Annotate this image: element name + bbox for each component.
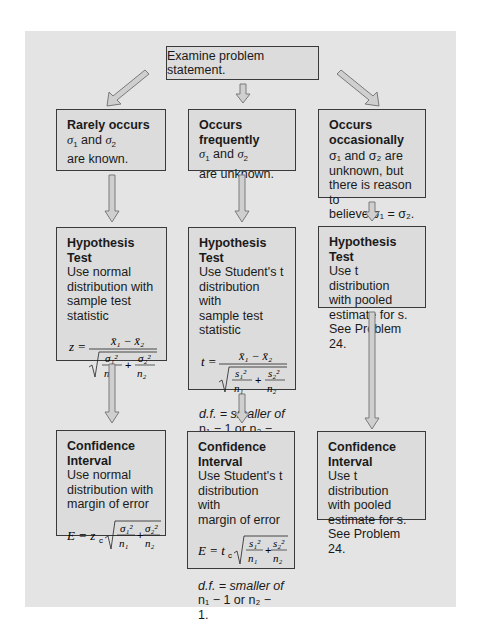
hypothesis-test-title: Hypothesis Test: [329, 235, 415, 264]
text-line: Use t distribution: [329, 264, 415, 293]
text-line: Use Student's t: [199, 265, 285, 280]
text-line: distribution with: [67, 483, 155, 498]
arrow-col2-down-2-icon: [234, 394, 250, 424]
rarely-occurs-box: Rarely occurs σ1 and σ2 are known.: [56, 109, 166, 171]
svg-text:z =: z =: [68, 339, 86, 354]
svg-text:σ₁²: σ₁²: [105, 352, 118, 364]
svg-text:E = t: E = t: [198, 543, 225, 558]
confidence-interval-title: Confidence Interval: [198, 440, 284, 469]
svg-text:s₁²: s₁²: [235, 367, 247, 379]
degrees-of-freedom-line2: n₁ − 1 or n₂ − 1.: [198, 593, 284, 622]
svg-text:σ₂²: σ₂²: [145, 522, 158, 534]
arrow-col1-down-1-icon: [104, 175, 120, 223]
arrow-left-diagonal-icon: [105, 68, 150, 108]
svg-text:+: +: [255, 374, 261, 386]
occurs-occasionally-title: Occurs occasionally: [329, 118, 415, 147]
text-line: See Problem 24.: [328, 527, 415, 556]
rarely-occurs-known: are known.: [67, 152, 155, 167]
svg-text:n₂: n₂: [137, 367, 147, 379]
z-margin-formula: E = z c σ₁² n₁ + σ₂² n₂: [67, 518, 161, 552]
svg-text:σ₁²: σ₁²: [120, 522, 133, 534]
svg-text:n₂: n₂: [267, 382, 277, 394]
text-line: sample test statistic: [199, 309, 285, 338]
confidence-interval-title: Confidence Interval: [67, 439, 155, 468]
text-line: Use Student's t: [198, 469, 284, 484]
t-statistic-formula: t = x̄₁ − x̄₂ s₁² n₁ + s₂² n₂: [199, 344, 289, 396]
arrow-center-down-icon: [235, 84, 251, 104]
svg-text:+: +: [137, 529, 143, 541]
svg-text:σ₂²: σ₂²: [138, 352, 151, 364]
occurs-frequently-box: Occurs frequently σ1 and σ2 are unknown.: [188, 109, 296, 171]
confidence-interval-title: Confidence Interval: [328, 440, 415, 469]
svg-text:c: c: [228, 551, 232, 560]
svg-text:s₂²: s₂²: [273, 537, 285, 549]
text-line: margin of error: [67, 497, 155, 512]
text-line: estimate for s.: [328, 513, 415, 528]
hypothesis-test-box-col1: Hypothesis Test Use normal distribution …: [56, 227, 167, 361]
svg-text:c: c: [99, 536, 103, 545]
svg-text:s₂²: s₂²: [268, 367, 280, 379]
text-line: unknown, but: [329, 164, 415, 179]
hypothesis-test-title: Hypothesis Test: [199, 236, 285, 265]
text-line: distribution with: [67, 280, 156, 295]
arrow-col1-down-2-icon: [104, 364, 120, 424]
svg-text:n₂: n₂: [273, 552, 283, 564]
t-margin-formula: E = t c s₁² n₁ + s₂² n₂: [198, 533, 288, 567]
svg-text:x̄₁ − x̄₂: x̄₁ − x̄₂: [110, 334, 144, 348]
svg-text:n₁: n₁: [234, 382, 244, 394]
rarely-occurs-sigma-line: σ1 and σ2: [67, 133, 155, 153]
confidence-interval-box-col2: Confidence Interval Use Student's t dist…: [187, 431, 295, 569]
arrow-col3-down-1-icon: [364, 202, 380, 222]
text-line: distribution with: [198, 484, 284, 513]
text-line: Use t distribution: [328, 469, 415, 498]
arrow-right-diagonal-icon: [337, 68, 382, 108]
text-line: Use normal: [67, 265, 156, 280]
confidence-interval-box-col3: Confidence Interval Use t distribution w…: [317, 431, 426, 520]
occurs-frequently-sigma-line: σ1 and σ2: [199, 147, 285, 167]
svg-text:n₁: n₁: [248, 552, 258, 564]
hypothesis-test-title: Hypothesis Test: [67, 236, 156, 265]
hypothesis-test-box-col3: Hypothesis Test Use t distribution with …: [318, 226, 426, 308]
text-line: σ₁ and σ₂ are: [329, 149, 415, 164]
hypothesis-test-box-col2: Hypothesis Test Use Student's t distribu…: [188, 227, 296, 390]
svg-text:E = z: E = z: [67, 528, 95, 543]
svg-text:t =: t =: [201, 354, 217, 369]
text-line: sample test statistic: [67, 294, 156, 323]
svg-text:n₁: n₁: [119, 537, 129, 549]
occurs-occasionally-box: Occurs occasionally σ₁ and σ₂ are unknow…: [318, 109, 426, 198]
occurs-frequently-title: Occurs frequently: [199, 118, 285, 147]
text-line: Use normal: [67, 468, 155, 483]
arrow-col2-down-1-icon: [234, 175, 250, 223]
text-line: with pooled: [329, 293, 415, 308]
rarely-occurs-title: Rarely occurs: [67, 118, 155, 133]
confidence-interval-box-col1: Confidence Interval Use normal distribut…: [56, 430, 166, 536]
degrees-of-freedom-line1: d.f. = smaller of: [198, 579, 284, 594]
svg-text:+: +: [265, 544, 271, 556]
text-line: margin of error: [198, 513, 284, 528]
text-line: distribution with: [199, 280, 285, 309]
svg-text:n₂: n₂: [145, 537, 155, 549]
arrow-col3-down-2-icon: [364, 312, 380, 430]
svg-text:x̄₁ − x̄₂: x̄₁ − x̄₂: [238, 349, 272, 363]
svg-text:+: +: [125, 359, 131, 371]
svg-text:s₁²: s₁²: [249, 537, 261, 549]
text-line: with pooled: [328, 498, 415, 513]
